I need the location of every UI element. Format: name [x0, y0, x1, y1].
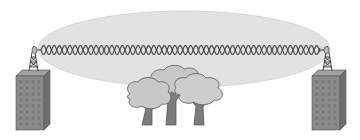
left-building: [16, 70, 50, 130]
fresnel-zone-diagram: [0, 0, 360, 140]
diagram-svg: [0, 0, 360, 140]
left-antenna-tower: [29, 46, 41, 71]
tree-icon: [175, 74, 223, 126]
right-building: [312, 70, 346, 130]
tree-icon: [127, 78, 171, 126]
